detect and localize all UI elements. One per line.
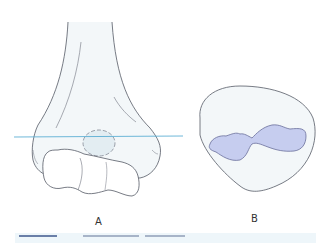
caption-bar-3 [145,235,185,237]
panel-b-cross-section [200,86,315,191]
fossa-ellipse [83,130,115,156]
panel-label-a: A [95,216,102,227]
panel-a-humerus [14,22,183,196]
bottom-caption-strip [15,233,316,243]
caption-bar-1 [19,235,57,237]
caption-bar-2 [83,235,139,237]
anatomy-figure [0,0,331,243]
panel-label-b: B [251,213,258,224]
